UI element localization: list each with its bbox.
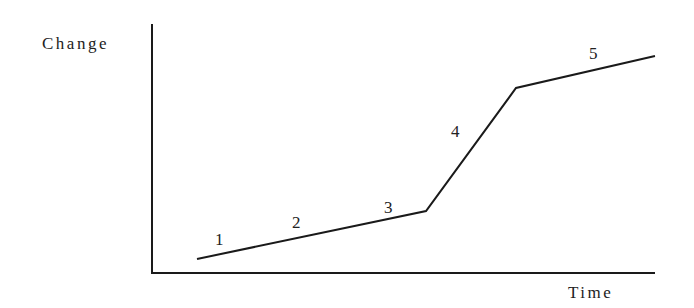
y-axis-label: Change	[42, 34, 109, 53]
segment-label-1: 1	[215, 230, 224, 249]
segment-label-3: 3	[384, 198, 393, 217]
x-axis-label: Time	[568, 283, 613, 302]
segment-label-2: 2	[292, 213, 301, 232]
segment-label-5: 5	[589, 44, 598, 63]
change-over-time-diagram: Change Time 1 2 3 4 5	[0, 0, 694, 308]
segment-label-4: 4	[451, 122, 460, 141]
change-curve	[197, 56, 655, 259]
